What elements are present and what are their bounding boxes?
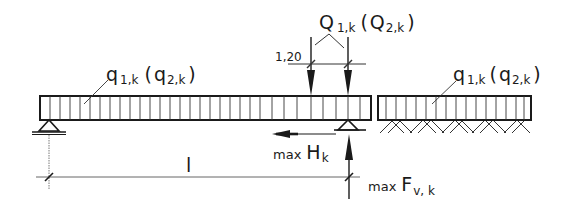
point-load-label: Q1,k(Q2,k) <box>319 11 415 35</box>
span-length-label: l <box>186 154 191 176</box>
horizontal-force-arrow <box>272 130 336 138</box>
roller-support-right <box>334 120 366 130</box>
vertical-force-label: maxFv, k <box>368 173 435 198</box>
ground-slab <box>378 96 531 120</box>
main-beam <box>40 96 371 120</box>
soil-hatching <box>380 121 530 133</box>
distributed-load-label-left: q1,k(q2,k) <box>106 63 196 87</box>
point-load-leader <box>315 34 344 48</box>
pin-support-left <box>32 120 66 135</box>
distributed-load-label-right: q1,k(q2,k) <box>453 63 541 87</box>
horizontal-force-label: maxHk <box>273 141 329 165</box>
beam-load-diagram: q1,k(q2,k) q1,k(q2,k) Q1,k(Q2,k) 1,20 l … <box>0 0 572 212</box>
diagram-canvas: q1,k(q2,k) q1,k(q2,k) Q1,k(Q2,k) 1,20 l … <box>0 0 572 212</box>
spacing-dimension-label: 1,20 <box>275 50 302 64</box>
vertical-force-arrow <box>345 134 353 199</box>
